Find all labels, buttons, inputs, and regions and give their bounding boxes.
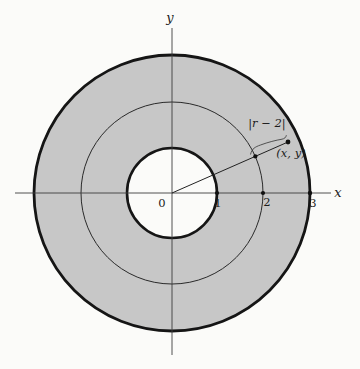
- tick-label-3: 3: [309, 196, 316, 210]
- tick-label-0: 0: [158, 196, 165, 210]
- x-axis-label: x: [334, 185, 342, 200]
- y-axis-label: y: [165, 10, 174, 25]
- distance-label: |r − 2|: [248, 116, 286, 131]
- tick-label-2: 2: [263, 195, 270, 209]
- annulus-diagram: y x 0 1 2 3 |r − 2| (x, y): [0, 0, 360, 369]
- circle-intersection-dot: [253, 154, 257, 158]
- tick-label-1: 1: [214, 196, 221, 210]
- point-label: (x, y): [276, 146, 305, 160]
- tick-dot-3: [308, 191, 312, 195]
- tick-dot-1: [215, 191, 219, 195]
- point-xy-dot: [286, 140, 291, 145]
- diagram-canvas: y x 0 1 2 3 |r − 2| (x, y): [0, 0, 360, 369]
